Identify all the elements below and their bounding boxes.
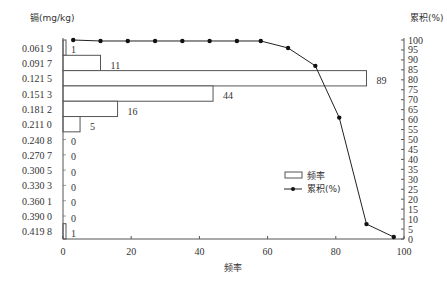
- right-tick-label: 85: [408, 64, 418, 75]
- legend-bar-label: 频率: [307, 170, 325, 181]
- frequency-bar: [63, 55, 101, 70]
- cumulative-point: [153, 39, 157, 43]
- right-tick-label: 100: [408, 35, 423, 46]
- cumulative-point: [364, 222, 368, 226]
- x-tick-label: 20: [126, 246, 136, 257]
- right-tick-label: 0: [408, 234, 413, 245]
- bar-value-label: 5: [90, 121, 95, 132]
- bar-value-label: 0: [71, 182, 76, 193]
- bar-value-label: 89: [376, 75, 386, 86]
- right-tick-label: 75: [408, 84, 418, 95]
- x-tick-label: 80: [331, 246, 341, 257]
- left-axis-title: 镉(mg/kg): [30, 12, 74, 23]
- category-label: 0.360 1: [22, 196, 52, 207]
- frequency-bar: [63, 117, 80, 132]
- right-tick-label: 50: [408, 134, 418, 145]
- x-axis-title-text: 频率: [224, 262, 242, 273]
- cumulative-point: [313, 64, 317, 68]
- category-label: 0.419 8: [22, 226, 52, 237]
- category-label: 0.121 5: [22, 73, 52, 84]
- legend-line-label: 累积(%): [307, 183, 341, 194]
- x-axis-title: 频率: [224, 262, 242, 273]
- cumulative-point: [180, 39, 184, 43]
- right-tick-label: 40: [408, 154, 418, 165]
- category-label: 0.091 7: [22, 58, 52, 69]
- category-label: 0.300 5: [22, 165, 52, 176]
- bar-value-label: 1: [71, 228, 76, 239]
- bar-value-label: 0: [71, 167, 76, 178]
- right-tick-label: 70: [408, 94, 418, 105]
- frequency-bar: [63, 101, 118, 116]
- bar-value-label: 44: [223, 90, 233, 101]
- cumulative-point: [71, 38, 75, 42]
- category-label: 0.270 7: [22, 150, 52, 161]
- frequency-bars: 11189441650000001: [63, 40, 386, 239]
- cumulative-point: [98, 39, 102, 43]
- right-tick-label: 90: [408, 54, 418, 65]
- cadmium-frequency-chart: 镉(mg/kg) 累积(%) 11189441650000001 0.061 9…: [0, 0, 447, 281]
- category-labels: 0.061 90.091 70.121 50.151 30.181 20.211…: [22, 43, 52, 238]
- category-label: 0.390 0: [22, 211, 52, 222]
- bar-value-label: 0: [71, 136, 76, 147]
- right-axis-title: 累积(%): [410, 12, 444, 23]
- category-label: 0.240 8: [22, 135, 52, 146]
- category-label: 0.061 9: [22, 43, 52, 54]
- left-axis-title-text: 镉(mg/kg): [30, 12, 74, 23]
- right-tick-label: 15: [408, 204, 418, 215]
- right-tick-label: 20: [408, 194, 418, 205]
- cumulative-point: [259, 39, 263, 43]
- right-tick-label: 80: [408, 74, 418, 85]
- x-tick-label: 0: [61, 246, 66, 257]
- cumulative-point: [286, 46, 290, 50]
- category-label: 0.330 3: [22, 180, 52, 191]
- cumulative-point: [235, 39, 239, 43]
- right-tick-label: 5: [408, 224, 413, 235]
- category-label: 0.181 2: [22, 104, 52, 115]
- bar-value-label: 1: [71, 44, 76, 55]
- cumulative-point: [207, 39, 211, 43]
- legend: 频率累积(%): [284, 170, 341, 194]
- cumulative-point: [392, 235, 396, 239]
- right-tick-label: 35: [408, 164, 418, 175]
- right-axis-title-text: 累积(%): [410, 12, 444, 23]
- x-tick-label: 60: [263, 246, 273, 257]
- right-tick-label: 30: [408, 174, 418, 185]
- x-tick-label: 100: [397, 246, 412, 257]
- right-tick-label: 45: [408, 144, 418, 155]
- category-label: 0.211 0: [22, 119, 52, 130]
- right-tick-label: 65: [408, 104, 418, 115]
- bar-value-label: 0: [71, 213, 76, 224]
- right-tick-label: 25: [408, 184, 418, 195]
- bar-value-label: 11: [111, 60, 121, 71]
- frequency-bar: [63, 86, 213, 101]
- category-label: 0.151 3: [22, 89, 52, 100]
- right-tick-label: 60: [408, 114, 418, 125]
- bar-value-label: 16: [128, 106, 138, 117]
- bar-value-label: 0: [71, 197, 76, 208]
- cumulative-point: [337, 115, 341, 119]
- right-tick-label: 95: [408, 44, 418, 55]
- right-tick-label: 10: [408, 214, 418, 225]
- cumulative-point: [126, 39, 130, 43]
- bar-value-label: 0: [71, 151, 76, 162]
- x-tick-label: 40: [194, 246, 204, 257]
- right-tick-label: 55: [408, 124, 418, 135]
